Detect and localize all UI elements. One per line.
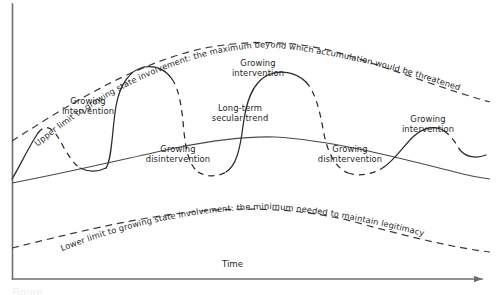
annotation-growing-intervention-1: Growing intervention: [42, 96, 134, 117]
annotation-line1: Growing: [382, 114, 474, 124]
cycle-segment-tail: [460, 150, 486, 157]
annotation-growing-disintervention-2: Growing disintervention: [300, 144, 400, 165]
annotation-growing-intervention-3: Growing intervention: [382, 114, 474, 135]
figure-caption-partial: Figure: [12, 287, 43, 295]
annotation-growing-disintervention-1: Growing disintervention: [128, 144, 228, 165]
secular-trend-path: [12, 137, 490, 183]
x-axis-label: Time: [222, 259, 243, 269]
annotation-growing-intervention-2: Growing intervention: [210, 58, 306, 79]
secular-trend-line2: secular trend: [194, 113, 286, 123]
annotation-line1: Growing: [128, 144, 228, 154]
diagram-canvas: Upper limit to growing state involvement…: [0, 0, 499, 295]
annotation-line1: Growing: [42, 96, 134, 106]
annotation-line2: intervention: [382, 124, 474, 134]
secular-trend-curve: [12, 137, 490, 183]
annotation-line2: intervention: [42, 106, 134, 116]
cycle-segment-rise-2: [226, 76, 266, 172]
annotation-line1: Growing: [210, 58, 306, 68]
cycle-segment-trough-2: [348, 167, 384, 175]
figure-container: Upper limit to growing state involvement…: [0, 0, 499, 295]
lower-limit-label: Lower limit to growing state involvement…: [59, 201, 426, 253]
annotation-secular-trend: Long-term secular trend: [194, 103, 286, 124]
secular-trend-line1: Long-term: [194, 103, 286, 113]
annotation-line2: disintervention: [300, 154, 400, 164]
cycle-segment-trough-1: [198, 172, 226, 176]
annotation-line2: intervention: [210, 68, 306, 78]
annotation-line2: disintervention: [128, 154, 228, 164]
annotation-line1: Growing: [300, 144, 400, 154]
